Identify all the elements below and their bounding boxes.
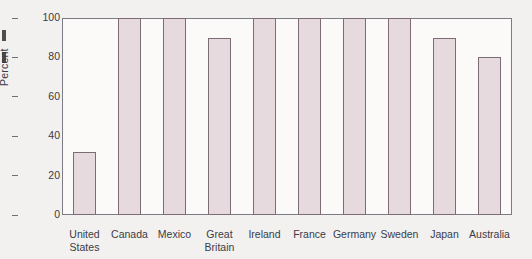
y-axis-tick	[12, 96, 18, 97]
x-axis-tick-label: Australia	[467, 228, 512, 241]
bar	[253, 18, 276, 215]
x-axis-tick-label: Sweden	[377, 228, 422, 241]
bar-chart: Percent 020406080100 UnitedStatesCanadaM…	[0, 0, 532, 259]
bar	[163, 18, 186, 215]
x-axis-tick-label-line: Germany	[332, 228, 377, 241]
y-axis-tick-label: 60	[34, 90, 60, 102]
y-axis-tick	[12, 57, 18, 58]
x-axis-tick-label: Japan	[422, 228, 467, 241]
y-axis-tick	[12, 175, 18, 176]
x-axis-tick-label: Ireland	[242, 228, 287, 241]
x-axis-tick-label: GreatBritain	[197, 228, 242, 253]
y-axis-tick-label: 80	[34, 50, 60, 62]
bar	[73, 152, 96, 215]
bar	[118, 18, 141, 215]
x-axis-tick-label: Canada	[107, 228, 152, 241]
bar	[343, 18, 366, 215]
scan-artifact-mark	[2, 30, 6, 41]
y-axis-tick-label: 0	[34, 208, 60, 220]
x-axis-tick-label: France	[287, 228, 332, 241]
bar	[388, 18, 411, 215]
y-axis-tick	[12, 136, 18, 137]
y-axis-title: Percent	[0, 48, 10, 86]
x-axis-tick-label-line: Sweden	[377, 228, 422, 241]
x-axis-tick-label-line: Ireland	[242, 228, 287, 241]
y-axis-tick-label: 20	[34, 169, 60, 181]
x-axis-tick-label-line: France	[287, 228, 332, 241]
x-axis-tick-label-line: Britain	[197, 241, 242, 254]
x-axis-tick-label-line: Australia	[467, 228, 512, 241]
bar	[478, 57, 501, 215]
x-axis-tick-label: Germany	[332, 228, 377, 241]
y-axis-tick	[12, 215, 18, 216]
x-axis-tick-label: UnitedStates	[62, 228, 107, 253]
x-axis-tick-label-line: Japan	[422, 228, 467, 241]
y-axis-tick-label: 100	[34, 11, 60, 23]
x-axis-tick-label-line: Mexico	[152, 228, 197, 241]
bar	[298, 18, 321, 215]
x-axis-tick-label-line: United	[62, 228, 107, 241]
bars-container	[62, 18, 512, 215]
x-axis-tick-label-line: Canada	[107, 228, 152, 241]
x-axis-tick-label-line: States	[62, 241, 107, 254]
y-axis-tick	[12, 18, 18, 19]
x-axis-tick-label-line: Great	[197, 228, 242, 241]
bar	[433, 38, 456, 215]
x-axis-tick-label: Mexico	[152, 228, 197, 241]
bar	[208, 38, 231, 215]
y-axis-tick-label: 40	[34, 129, 60, 141]
